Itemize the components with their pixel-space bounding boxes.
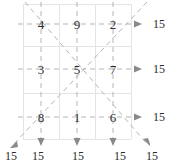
- arrowhead-diagonal-anti: [10, 141, 18, 148]
- arrowhead-row-top: [134, 21, 142, 28]
- cell-r0c2: 2: [104, 18, 122, 31]
- sum-column-left: 15: [25, 150, 51, 162]
- arrowhead-diagonal-main: [143, 138, 150, 146]
- cell-r2c0: 8: [32, 111, 50, 124]
- arrowhead-row-bottom: [134, 114, 142, 121]
- cell-r2c1: 1: [68, 111, 86, 124]
- arrowhead-column-middle: [74, 138, 81, 146]
- sum-row-middle: 15: [146, 63, 172, 75]
- sum-diagonal-main: 15: [139, 150, 165, 162]
- sum-row-bottom: 15: [146, 111, 172, 123]
- cell-r1c1: 5: [68, 63, 86, 76]
- row-arrowheads: [134, 21, 142, 121]
- arrowhead-column-left: [38, 138, 45, 146]
- arrowhead-row-middle: [134, 66, 142, 73]
- sum-row-top: 15: [146, 18, 172, 30]
- cell-r0c1: 9: [68, 18, 86, 31]
- cell-r0c0: 4: [32, 18, 50, 31]
- cell-r1c2: 7: [104, 63, 122, 76]
- sum-diagonal-anti: 15: [0, 150, 24, 162]
- sum-column-middle: 15: [65, 150, 91, 162]
- arrowhead-column-right: [110, 138, 117, 146]
- magic-square-figure: 4 9 2 3 5 7 8 1 6 15 15 15 15 15 15 15 1…: [0, 0, 177, 168]
- cell-r1c0: 3: [32, 63, 50, 76]
- cell-r2c2: 6: [104, 111, 122, 124]
- sum-column-right: 15: [107, 150, 133, 162]
